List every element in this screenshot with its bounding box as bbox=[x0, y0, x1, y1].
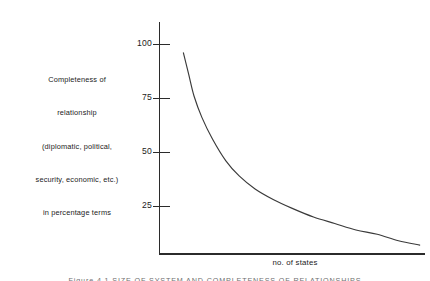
y-tick-label-75: 75 bbox=[118, 93, 152, 102]
y-tick-label-100: 100 bbox=[118, 39, 152, 48]
y-tick-label-25: 25 bbox=[118, 201, 152, 210]
y-tick-label-50: 50 bbox=[118, 147, 152, 156]
plot-area bbox=[0, 0, 430, 281]
x-axis-label: no. of states bbox=[228, 258, 362, 267]
figure-container: Completeness of relationship (diplomatic… bbox=[0, 0, 430, 281]
data-curve bbox=[183, 53, 419, 245]
figure-caption: Figure 4.1 SIZE OF SYSTEM AND COMPLETENE… bbox=[0, 276, 430, 281]
